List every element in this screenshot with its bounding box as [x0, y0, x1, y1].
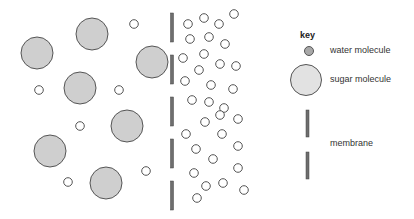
water-molecule — [200, 50, 209, 59]
water-molecule — [190, 169, 199, 178]
water-molecule — [240, 186, 249, 195]
sugar-molecule — [34, 135, 66, 167]
water-molecule — [205, 98, 214, 107]
water-molecule — [234, 164, 243, 173]
water-molecule — [229, 85, 238, 94]
key-title: key — [300, 30, 315, 40]
membrane-segment — [171, 139, 174, 168]
water-molecule — [193, 194, 202, 203]
sugar-molecule — [90, 167, 122, 199]
water-molecule — [230, 10, 239, 19]
key-water-label: water molecule — [330, 45, 391, 55]
water-molecule — [179, 54, 188, 63]
key-membrane-label: membrane — [330, 138, 373, 148]
water-molecule — [186, 35, 195, 44]
water-molecule — [35, 86, 44, 95]
water-molecule — [195, 66, 204, 75]
key-sugar-icon — [291, 65, 322, 96]
membrane-segment — [171, 13, 174, 42]
water-molecule — [201, 118, 210, 127]
water-molecule — [184, 20, 193, 29]
water-molecule — [188, 96, 197, 105]
key-sugar-label: sugar molecule — [330, 74, 391, 84]
sugar-molecule — [64, 72, 96, 104]
water-molecule — [200, 14, 209, 23]
water-molecule — [209, 155, 218, 164]
water-molecule — [142, 167, 151, 176]
water-molecule — [182, 130, 191, 139]
sugar-molecule — [21, 37, 53, 69]
water-molecule — [216, 60, 225, 69]
sugar-molecule — [136, 46, 168, 78]
membrane-segment — [171, 97, 174, 126]
osmosis-diagram: key water molecule sugar molecule membra… — [0, 0, 414, 219]
water-molecule — [218, 130, 227, 139]
water-molecule — [232, 62, 241, 71]
key-membrane-icon — [306, 110, 309, 137]
water-molecule — [215, 20, 224, 29]
water-molecule — [234, 115, 243, 124]
water-molecule — [216, 111, 225, 120]
water-molecule — [219, 179, 228, 188]
diagram-canvas — [0, 0, 414, 219]
water-molecule — [202, 182, 211, 191]
water-molecule — [181, 77, 190, 86]
water-molecule — [234, 142, 243, 151]
membrane-segment — [171, 181, 174, 210]
sugar-molecule — [111, 110, 143, 142]
key-water-icon — [305, 47, 314, 56]
water-molecule — [221, 40, 230, 49]
membrane-segment — [171, 55, 174, 84]
water-molecule — [207, 81, 216, 90]
water-molecule — [130, 20, 139, 29]
water-molecule — [76, 122, 85, 131]
key-membrane-icon — [306, 152, 309, 179]
water-molecule — [64, 178, 73, 187]
water-molecule — [205, 33, 214, 42]
water-molecule — [115, 86, 124, 95]
water-molecule — [192, 145, 201, 154]
sugar-molecule — [76, 18, 108, 50]
